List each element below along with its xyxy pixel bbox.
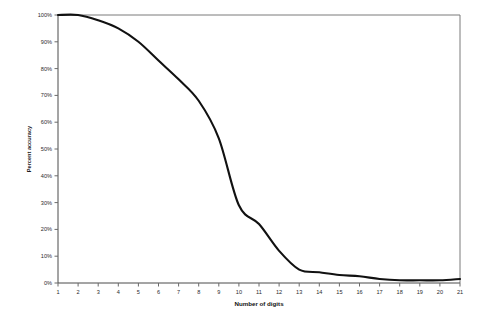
x-axis-label: Number of digits	[234, 300, 284, 307]
x-tick-label-11: 11	[256, 289, 262, 295]
x-tick-label-18: 18	[397, 289, 403, 295]
x-tick-label-8: 8	[197, 289, 200, 295]
x-tick-label-4: 4	[117, 289, 120, 295]
x-tick-label-2: 2	[77, 289, 80, 295]
x-tick-label-12: 12	[276, 289, 282, 295]
x-tick-label-17: 17	[376, 289, 382, 295]
x-tick-label-16: 16	[356, 289, 362, 295]
chart-container: 0%10%20%30%40%50%60%70%80%90%100%1234567…	[0, 0, 484, 318]
accuracy-curve	[58, 15, 460, 281]
y-tick-label-30: 30%	[41, 200, 52, 206]
y-tick-label-40: 40%	[41, 173, 52, 179]
y-tick-label-80: 80%	[41, 66, 52, 72]
x-tick-label-7: 7	[177, 289, 180, 295]
y-tick-label-70: 70%	[41, 92, 52, 98]
x-tick-label-1: 1	[56, 289, 59, 295]
x-tick-label-19: 19	[417, 289, 423, 295]
y-tick-label-60: 60%	[41, 119, 52, 125]
y-tick-label-10: 10%	[41, 253, 52, 259]
x-tick-label-9: 9	[217, 289, 220, 295]
x-tick-label-13: 13	[296, 289, 302, 295]
x-tick-label-10: 10	[236, 289, 242, 295]
x-tick-label-21: 21	[457, 289, 463, 295]
y-tick-label-90: 90%	[41, 39, 52, 45]
x-tick-label-14: 14	[316, 289, 322, 295]
x-tick-label-5: 5	[137, 289, 140, 295]
y-tick-label-0: 0%	[44, 280, 52, 286]
x-tick-label-6: 6	[157, 289, 160, 295]
y-tick-label-100: 100%	[38, 12, 52, 18]
y-axis-label: Percent accuracy	[26, 125, 32, 172]
accuracy-line-chart: 0%10%20%30%40%50%60%70%80%90%100%1234567…	[0, 0, 484, 318]
x-tick-label-15: 15	[336, 289, 342, 295]
x-tick-label-20: 20	[437, 289, 443, 295]
x-tick-label-3: 3	[97, 289, 100, 295]
y-tick-label-50: 50%	[41, 146, 52, 152]
y-tick-label-20: 20%	[41, 226, 52, 232]
